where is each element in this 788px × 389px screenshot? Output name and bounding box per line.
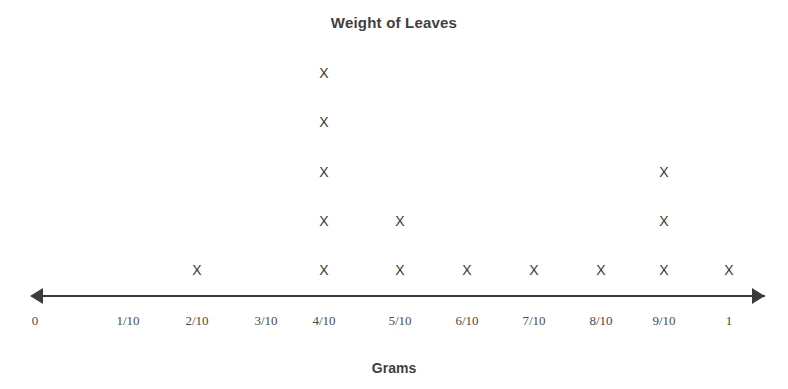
data-point-x-mark: X	[389, 214, 411, 228]
x-axis-line	[32, 295, 765, 297]
x-axis-tick-label: 9/10	[634, 313, 694, 329]
chart-title: Weight of Leaves	[0, 14, 788, 31]
x-axis-tick-label: 8/10	[571, 313, 631, 329]
data-point-x-mark: X	[718, 263, 740, 277]
data-point-x-mark: X	[313, 66, 335, 80]
axis-arrow-left-icon	[30, 288, 43, 304]
x-axis-tick-label: 6/10	[437, 313, 497, 329]
data-point-x-mark: X	[653, 214, 675, 228]
x-axis-tick-label: 1/10	[98, 313, 158, 329]
x-axis-tick-label: 1	[699, 313, 759, 329]
x-axis-tick-label: 5/10	[370, 313, 430, 329]
data-point-x-mark: X	[313, 263, 335, 277]
data-point-x-mark: X	[523, 263, 545, 277]
data-point-x-mark: X	[313, 165, 335, 179]
data-point-x-mark: X	[313, 214, 335, 228]
data-point-x-mark: X	[186, 263, 208, 277]
data-point-x-mark: X	[653, 165, 675, 179]
x-axis-tick-label: 3/10	[236, 313, 296, 329]
x-axis-tick-label: 7/10	[504, 313, 564, 329]
data-point-x-mark: X	[590, 263, 612, 277]
data-point-x-mark: X	[653, 263, 675, 277]
x-axis-tick-label: 2/10	[167, 313, 227, 329]
data-point-x-mark: X	[313, 115, 335, 129]
data-point-x-mark: X	[456, 263, 478, 277]
dot-plot-figure: Weight of Leaves XXXXXXXXXXXXXXX 01/102/…	[0, 0, 788, 389]
axis-arrow-right-icon	[752, 288, 765, 304]
x-axis-tick-label: 0	[5, 313, 65, 329]
x-axis-tick-label: 4/10	[294, 313, 354, 329]
data-point-x-mark: X	[389, 263, 411, 277]
x-axis-label: Grams	[0, 360, 788, 376]
